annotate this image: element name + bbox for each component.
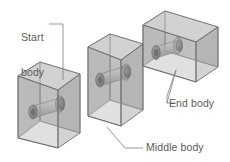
middle-body-front-face (88, 47, 121, 126)
middle-body-group[interactable] (88, 34, 143, 126)
start-body-label-line2: body (21, 67, 44, 79)
start-body-label: Start body (21, 9, 44, 101)
start-body-label-line1: Start (21, 32, 44, 44)
end-body-group[interactable] (143, 11, 218, 82)
middle-body-leader-line (107, 127, 143, 148)
middle-body-label: Middle body (146, 142, 204, 154)
figure-canvas: Start body Middle body End body (0, 0, 230, 162)
end-body-label: End body (169, 98, 214, 110)
